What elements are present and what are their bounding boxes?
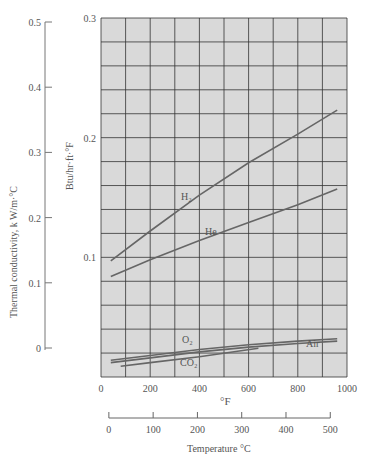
y-tick-label: 0.3 bbox=[84, 13, 97, 24]
y-tick-label: 0.1 bbox=[84, 252, 97, 263]
x-tick-label: 0 bbox=[99, 383, 104, 394]
chart-plot: 0.10.20.3 02004006008001000 010020030040… bbox=[0, 0, 372, 463]
celsius-tick-label: 500 bbox=[323, 424, 338, 435]
label-h2: H₂ bbox=[181, 191, 192, 202]
x-tick-label: 200 bbox=[143, 383, 158, 394]
x-tick-label: 1000 bbox=[337, 383, 357, 394]
x-tick-label: 800 bbox=[290, 383, 305, 394]
celsius-tick-label: 0 bbox=[106, 424, 111, 435]
celsius-tick-label: 100 bbox=[146, 424, 161, 435]
celsius-tick-label: 300 bbox=[234, 424, 249, 435]
celsius-tick-label: 400 bbox=[278, 424, 293, 435]
celsius-axis-title: Temperature °C bbox=[187, 443, 251, 454]
y-tick-label: 0.2 bbox=[84, 133, 97, 144]
x-axis-title: °F bbox=[220, 395, 231, 407]
label-he: He bbox=[205, 226, 217, 237]
label-o2: O₂ bbox=[182, 334, 193, 345]
celsius-tick-label: 200 bbox=[190, 424, 205, 435]
label-air: Air bbox=[306, 338, 319, 349]
label-co2: CO₂ bbox=[180, 357, 197, 368]
x-tick-label: 400 bbox=[192, 383, 207, 394]
x-tick-label: 600 bbox=[241, 383, 256, 394]
